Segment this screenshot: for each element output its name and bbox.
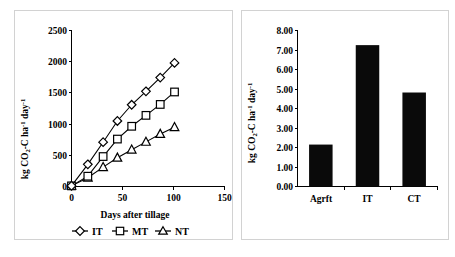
data-point-NT-2 [99,162,108,170]
legend-marker-diamond-IT [76,227,85,236]
bar-category-label-it: IT [362,194,373,204]
data-point-IT-2 [99,138,108,147]
bar-y-tick-label-6: 6.00 [276,65,293,75]
figure-container: kg CO2-C ha-1 day-1 2500 2000 1500 1000 … [0,0,455,257]
line-y-tick-label-500: 500 [53,151,68,161]
bar-category-label-ct: CT [407,194,421,204]
data-point-NT-3 [113,153,122,161]
series-IT [67,59,179,191]
line-x-tick-label-150: 150 [217,193,232,203]
legend-label-NT: NT [175,226,189,237]
data-point-MT-7 [171,88,179,96]
data-point-MT-5 [142,112,150,120]
bar-chart-panel: kg CO2-C ha-1 day-1 8.00 7.00 6.00 5.00 … [241,10,449,240]
line-y-tick-label-1000: 1000 [48,120,67,130]
bar-y-tick-label-2: 2.00 [276,143,293,153]
data-point-NT-6 [156,129,165,137]
data-point-NT-7 [170,123,179,131]
bar-y-tick-label-1: 1.00 [276,163,293,173]
data-point-NT-5 [142,137,151,145]
bar-y-tick-label-3: 3.00 [276,124,293,134]
legend-label-MT: MT [132,226,148,237]
bar-it [356,45,380,186]
line-y-tick-label-2500: 2500 [48,26,67,36]
bar-y-tick-label-5: 5.00 [276,85,293,95]
bar-y-tick-label-0: 0.00 [276,182,293,192]
data-point-IT-1 [84,160,93,169]
line-chart-legend: IT MT NT [72,226,189,237]
bar-y-tick-label-7: 7.00 [276,46,293,56]
data-point-MT-2 [99,153,107,161]
line-chart-y-axis-title: kg CO2-C ha-1 day-1 [19,99,32,180]
line-chart-panel: kg CO2-C ha-1 day-1 2500 2000 1500 1000 … [14,10,233,240]
series-MT [68,88,179,190]
legend-marker-square-MT [116,227,123,234]
bar-ct [402,93,426,187]
data-point-MT-3 [114,135,122,143]
line-chart-x-axis-title: Days after tillage [101,210,170,220]
legend-label-IT: IT [92,226,103,237]
line-y-tick-label-1500: 1500 [48,88,67,98]
bar-agrft [309,145,333,187]
line-x-tick-label-0: 0 [69,193,74,203]
line-y-tick-label-0: 0 [62,182,67,192]
bar-category-label-agrft: Agrft [310,194,333,204]
bar-y-tick-label-8: 8.00 [276,26,293,36]
bar-y-tick-label-4: 4.00 [276,104,293,114]
data-point-MT-1 [84,172,92,180]
bar-chart-y-axis-title: kg CO2-C ha-1 day-1 [246,83,259,164]
bar-chart-svg: kg CO2-C ha-1 day-1 8.00 7.00 6.00 5.00 … [242,11,448,239]
data-point-MT-4 [128,122,136,130]
data-point-MT-6 [156,101,164,109]
data-point-NT-4 [127,145,136,153]
line-chart-svg: kg CO2-C ha-1 day-1 2500 2000 1500 1000 … [15,11,232,239]
line-x-tick-label-50: 50 [118,193,128,203]
line-x-tick-label-100: 100 [166,193,181,203]
line-y-tick-label-2000: 2000 [48,57,67,67]
bar-group [309,45,426,186]
